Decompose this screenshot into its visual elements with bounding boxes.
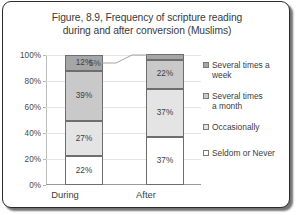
- segment-during-several-times-a-month[interactable]: 39%: [65, 71, 103, 122]
- y-tickmark-20: [43, 159, 46, 160]
- legend-item-occasionally[interactable]: Occasionally: [203, 122, 259, 132]
- segment-after-seldom-or-never[interactable]: 37%: [146, 137, 184, 185]
- segment-label-during-occasionally: 27%: [76, 135, 92, 143]
- y-axis-label-20: 20%: [25, 155, 41, 164]
- legend-label-several-times-a-month: Several times a month: [212, 91, 268, 111]
- bar-after[interactable]: 37% 37% 22% 5%: [146, 55, 184, 185]
- y-axis-label-60: 60%: [25, 103, 41, 112]
- segment-label-after-seldom-or-never: 37%: [157, 157, 173, 165]
- legend-swatch-seldom-or-never: [203, 150, 209, 156]
- y-tickmark-100: [43, 55, 46, 56]
- legend-swatch-several-times-a-month: [203, 93, 209, 99]
- legend-swatch-occasionally: [203, 124, 209, 130]
- chart-frame: Figure, 8.9, Frequency of scripture read…: [2, 1, 290, 208]
- legend-label-several-times-a-week: Several times a week: [212, 60, 290, 80]
- segment-during-seldom-or-never[interactable]: 22%: [65, 156, 103, 185]
- segment-label-during-seldom-or-never: 22%: [76, 167, 92, 175]
- segment-after-occasionally[interactable]: 37%: [146, 89, 184, 137]
- segment-label-during-several-times-a-month: 39%: [76, 92, 92, 100]
- legend-swatch-several-times-a-week: [203, 62, 209, 68]
- y-tickmark-80: [43, 81, 46, 82]
- legend-item-seldom-or-never[interactable]: Seldom or Never: [203, 148, 275, 158]
- callout-leader-line: [102, 52, 148, 66]
- y-tickmark-60: [43, 107, 46, 108]
- segment-after-several-times-a-week[interactable]: 5%: [146, 54, 184, 61]
- segment-after-several-times-a-month[interactable]: 22%: [146, 60, 184, 89]
- y-axis-line: [46, 55, 47, 185]
- y-axis-label-40: 40%: [25, 129, 41, 138]
- y-axis-label-100: 100%: [20, 51, 41, 60]
- legend-item-several-times-a-month[interactable]: Several times a month: [203, 91, 268, 111]
- segment-label-after-occasionally: 37%: [157, 109, 173, 117]
- bar-during[interactable]: 22% 27% 39% 12%: [65, 55, 103, 185]
- legend-item-several-times-a-week[interactable]: Several times a week: [203, 60, 290, 80]
- segment-label-after-several-times-a-month: 22%: [157, 70, 173, 78]
- chart-title: Figure, 8.9, Frequency of scripture read…: [17, 11, 277, 37]
- plot-area: 100% 80% 60% 40% 20% 0% 22% 27% 39% 12% …: [46, 55, 201, 185]
- chart-title-line-2: during and after conversion (Muslims): [17, 24, 277, 37]
- x-axis-label-during: During: [35, 189, 95, 200]
- x-axis-label-after: After: [116, 189, 176, 200]
- y-tickmark-40: [43, 133, 46, 134]
- y-axis-label-80: 80%: [25, 77, 41, 86]
- callout-label-after-several-times-a-week: 5%: [89, 59, 101, 68]
- chart-title-line-1: Figure, 8.9, Frequency of scripture read…: [52, 12, 242, 23]
- legend-label-seldom-or-never: Seldom or Never: [212, 148, 275, 158]
- y-tickmark-0: [43, 185, 46, 186]
- segment-during-occasionally[interactable]: 27%: [65, 121, 103, 156]
- legend-label-occasionally: Occasionally: [212, 122, 259, 132]
